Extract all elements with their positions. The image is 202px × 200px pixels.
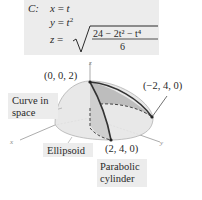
y-rhs-exponent: 2: [70, 16, 74, 24]
equation-x: x = t: [50, 3, 70, 14]
point-label-top: (0, 0, 2): [44, 70, 77, 81]
x-eq: =: [58, 2, 64, 14]
axis-label-z: z: [89, 58, 92, 69]
z-eq: =: [57, 33, 63, 45]
x-axis: [20, 125, 55, 140]
label-curve-line1: Curve in: [12, 95, 48, 106]
label-ellipsoid: Ellipsoid: [47, 145, 85, 156]
x-lhs: x: [50, 2, 55, 14]
label-cylinder-line1: Parabolic: [100, 161, 140, 172]
z-denominator: 6: [120, 41, 125, 52]
label-curve-line2: space: [12, 107, 35, 118]
curve-label: C:: [28, 3, 39, 14]
y-eq: =: [58, 16, 64, 28]
label-cylinder-line2: cylinder: [100, 173, 134, 184]
y-lhs: y: [50, 16, 55, 28]
equation-y: y = t2: [50, 15, 73, 28]
x-rhs: t: [67, 2, 70, 14]
z-numerator: 24 − 2t² − t⁴: [93, 28, 141, 39]
axis-label-y: y: [160, 138, 163, 149]
equation-z-lhs: z =: [50, 34, 63, 45]
y-axis: [140, 135, 160, 142]
point-label-right: (−2, 4, 0): [143, 80, 182, 91]
axis-label-x: x: [10, 137, 13, 148]
z-lhs: z: [50, 33, 54, 45]
point-label-bottom: (2, 4, 0): [105, 143, 138, 154]
